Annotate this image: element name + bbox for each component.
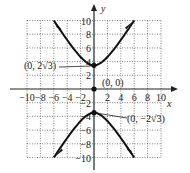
y-tick-label: −2 — [80, 98, 91, 109]
y-tick-label: 8 — [86, 29, 91, 40]
y-tick-label: 6 — [86, 43, 91, 54]
upper-vertex-point — [91, 63, 96, 68]
x-tick-label: 4 — [118, 92, 123, 103]
y-tick-label: 10 — [81, 16, 91, 27]
center-label: (0, 0) — [102, 77, 124, 89]
y-tick-label: 2 — [86, 70, 91, 81]
hyperbola-graph: −10−8−6−4−2246810108642−2−4−6−8−10 y x (… — [0, 0, 190, 173]
y-axis-label: y — [100, 3, 106, 14]
upper-vertex-label: (0, 2√3) — [24, 60, 56, 72]
y-axis-arrow-icon — [91, 4, 97, 11]
center-point — [91, 86, 96, 91]
x-tick-label: −8 — [35, 92, 46, 103]
y-tick-label: −8 — [80, 139, 91, 150]
x-tick-label: 6 — [132, 92, 137, 103]
x-tick-label: 10 — [156, 92, 166, 103]
lower-vertex-label: (0, −2√3) — [127, 113, 165, 125]
y-tick-label: −10 — [75, 153, 91, 164]
x-tick-label: 8 — [145, 92, 150, 103]
x-tick-label: 2 — [105, 92, 110, 103]
lower-vertex-point — [91, 110, 96, 115]
x-tick-label: −10 — [19, 92, 35, 103]
x-tick-label: −6 — [48, 92, 59, 103]
x-axis-label: x — [166, 98, 172, 109]
x-axis-arrow-icon — [171, 86, 178, 92]
x-tick-label: −4 — [62, 92, 73, 103]
y-tick-label: −6 — [80, 125, 91, 136]
